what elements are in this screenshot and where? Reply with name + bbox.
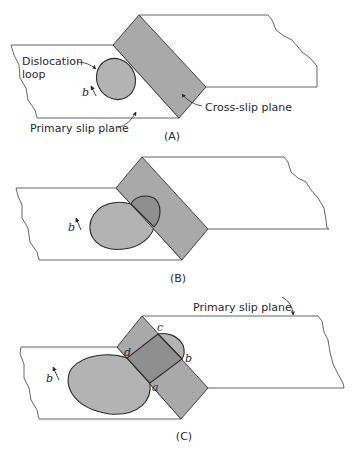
point-b-label: b <box>185 352 192 365</box>
primary-slip-plane-label: Primary slip plane <box>30 122 129 135</box>
point-d-label: d <box>124 346 131 359</box>
burgers-vector-label: b <box>82 86 89 99</box>
dislocation-cross-slip-diagram: Dislocation loop b Cross-slip plane Prim… <box>0 0 356 455</box>
primary-slip-plane-label: Primary slip plane <box>193 301 292 314</box>
panel-c-caption: (C) <box>176 430 192 443</box>
panel-b: b (B) <box>16 157 329 285</box>
dislocation-loop-label-line2: loop <box>22 68 46 81</box>
panel-c: c b a d b Primary slip plane (C) <box>20 297 344 443</box>
panel-a: Dislocation loop b Cross-slip plane Prim… <box>11 15 317 143</box>
burgers-vector-label: b <box>68 221 75 234</box>
point-c-label: c <box>157 321 163 334</box>
dislocation-loop-label-line1: Dislocation <box>22 55 83 68</box>
point-a-label: a <box>152 381 159 394</box>
panel-b-caption: (B) <box>170 272 186 285</box>
burgers-vector-label: b <box>46 372 53 385</box>
panel-a-caption: (A) <box>164 130 180 143</box>
cross-slip-plane-label: Cross-slip plane <box>205 101 292 114</box>
